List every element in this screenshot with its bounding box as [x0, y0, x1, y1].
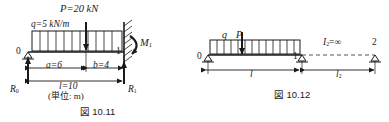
dist-load-label: q=5 kN/m	[31, 20, 69, 30]
dimension-spans	[206, 61, 375, 74]
dimension-a-label: a=6	[46, 61, 62, 71]
dimension-l2-label: l2	[336, 70, 342, 80]
fixed-support-wall	[124, 20, 132, 62]
point-load-label: P=20 kN	[60, 4, 98, 15]
unit-note: (単位: m)	[48, 92, 84, 101]
node-label-1: 1	[116, 47, 121, 57]
node-label-1-2: 1	[293, 52, 298, 62]
node-label-2-2: 2	[372, 38, 377, 48]
node-label-0: 0	[16, 47, 21, 57]
support-2	[369, 55, 381, 62]
reaction-left-label: R0	[10, 85, 19, 95]
point-load-label-2: P	[236, 30, 242, 40]
figure-caption-10-12: 図 10.12	[195, 87, 389, 101]
beam-load-block	[32, 31, 122, 51]
figure-caption-10-11: 図 10.11	[0, 104, 195, 118]
support-0	[202, 55, 214, 62]
moment-label: M1	[140, 38, 152, 49]
dimension-ab	[28, 52, 124, 72]
reaction-right-label: R1	[128, 85, 137, 95]
dimension-b-label: b=4	[93, 61, 109, 71]
dist-load-label-2: q	[222, 30, 227, 40]
figure-10-11: P=20 kN q=5 kN/m M1 0 1 a=6 b=4 R0 R1 l=…	[0, 0, 195, 122]
figure-10-12-drawing	[195, 0, 389, 122]
figure-10-12: P q I2=∞ 0 1 2 l l2 図 10.12	[195, 0, 389, 122]
node-label-0-2: 0	[197, 52, 202, 62]
beam-load-block-2	[210, 40, 300, 54]
inertia-label: I2=∞	[323, 38, 341, 48]
dimension-l-label-2: l	[250, 70, 253, 80]
